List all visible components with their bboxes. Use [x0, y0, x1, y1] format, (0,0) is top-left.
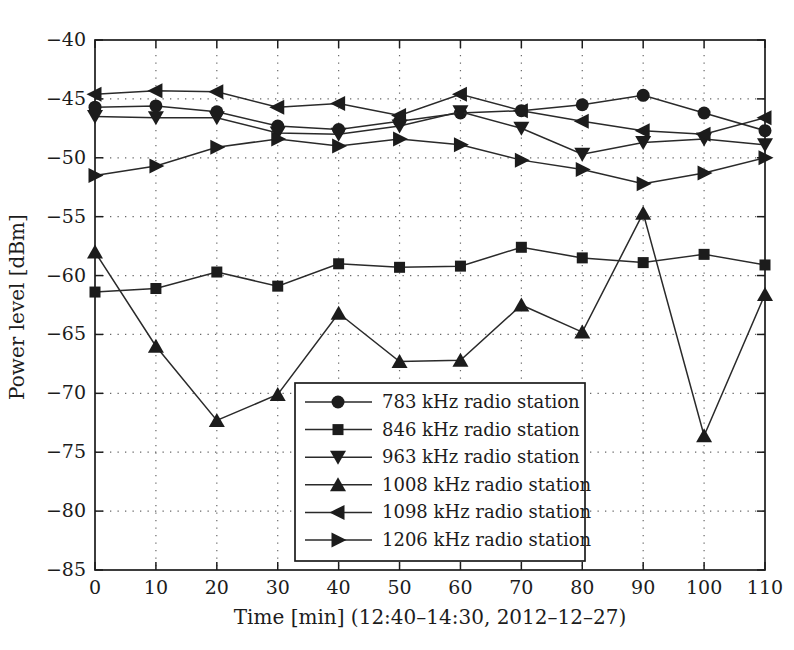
square-marker-icon [90, 287, 101, 298]
x-tick-label: 20 [205, 576, 229, 598]
series-963-khz-radio-station [87, 105, 773, 161]
triangle-left-marker-icon [269, 100, 284, 115]
series-line [95, 139, 765, 184]
triangle-right-marker-icon [89, 168, 104, 183]
circle-marker-icon [759, 124, 772, 137]
triangle-right-marker-icon [210, 140, 225, 155]
triangle-left-marker-icon [208, 84, 223, 99]
triangle-down-marker-icon [513, 122, 529, 136]
square-marker-icon [516, 242, 527, 253]
triangle-left-marker-icon [635, 123, 650, 138]
legend: 783 kHz radio station846 kHz radio stati… [295, 383, 592, 561]
square-marker-icon [760, 259, 771, 270]
legend-label: 1008 kHz radio station [382, 474, 592, 495]
triangle-up-marker-icon [635, 206, 651, 220]
chart-canvas: 0102030405060708090100110−40−45−50−55−60… [0, 0, 794, 650]
triangle-right-marker-icon [454, 137, 469, 152]
y-tick-label: −40 [46, 28, 86, 50]
square-marker-icon [577, 252, 588, 263]
x-tick-label: 70 [509, 576, 533, 598]
y-tick-label: −80 [46, 499, 86, 521]
triangle-up-marker-icon [148, 339, 164, 353]
triangle-up-marker-icon [513, 298, 529, 312]
square-marker-icon [150, 283, 161, 294]
y-tick-label: −75 [46, 440, 86, 462]
y-tick-label: −70 [46, 381, 86, 403]
y-tick-label: −65 [46, 322, 86, 344]
triangle-right-marker-icon [393, 131, 408, 146]
series-line [95, 95, 765, 130]
series-1098-khz-radio-station [87, 83, 772, 142]
triangle-up-marker-icon [757, 287, 773, 301]
x-tick-label: 90 [631, 576, 655, 598]
x-tick-label: 0 [89, 576, 101, 598]
y-axis-title: Power level [dBm] [5, 214, 29, 400]
legend-label: 846 kHz radio station [382, 419, 580, 440]
triangle-right-marker-icon [698, 166, 713, 181]
square-marker-icon [333, 424, 344, 435]
triangle-right-marker-icon [149, 159, 164, 174]
triangle-right-marker-icon [515, 153, 530, 168]
square-marker-icon [211, 267, 222, 278]
legend-label: 783 kHz radio station [382, 391, 580, 412]
square-marker-icon [394, 262, 405, 273]
square-marker-icon [455, 261, 466, 272]
triangle-left-marker-icon [147, 83, 162, 98]
square-marker-icon [272, 281, 283, 292]
y-tick-label: −55 [46, 205, 86, 227]
series-line [95, 112, 765, 154]
x-tick-label: 30 [266, 576, 290, 598]
legend-label: 1206 kHz radio station [382, 529, 592, 550]
legend-label: 1098 kHz radio station [382, 501, 592, 522]
triangle-left-marker-icon [757, 110, 772, 125]
triangle-left-marker-icon [330, 96, 345, 111]
series-line [95, 247, 765, 292]
triangle-right-marker-icon [637, 176, 652, 191]
triangle-up-marker-icon [209, 413, 225, 427]
triangle-left-marker-icon [452, 87, 467, 102]
circle-marker-icon [149, 99, 162, 112]
triangle-right-marker-icon [576, 162, 591, 177]
triangle-right-marker-icon [332, 139, 347, 154]
triangle-up-marker-icon [87, 245, 103, 259]
series-783-khz-radio-station [89, 89, 772, 137]
y-tick-label: −60 [46, 264, 86, 286]
triangle-down-marker-icon [757, 138, 773, 152]
circle-marker-icon [332, 396, 345, 409]
triangle-up-marker-icon [331, 306, 347, 320]
triangle-left-marker-icon [574, 114, 589, 129]
square-marker-icon [699, 249, 710, 260]
triangle-up-marker-icon [270, 387, 286, 401]
triangle-up-marker-icon [696, 428, 712, 442]
series-line [95, 91, 765, 135]
circle-marker-icon [637, 89, 650, 102]
triangle-down-marker-icon [574, 148, 590, 162]
square-marker-icon [333, 258, 344, 269]
circle-marker-icon [698, 107, 711, 120]
circle-marker-icon [576, 98, 589, 111]
legend-label: 963 kHz radio station [382, 446, 580, 467]
y-tick-label: −50 [46, 146, 86, 168]
series-846-khz-radio-station [90, 242, 771, 298]
y-tick-label: −45 [46, 87, 86, 109]
triangle-left-marker-icon [87, 87, 102, 102]
y-tick-label: −85 [46, 558, 86, 580]
x-tick-label: 40 [327, 576, 351, 598]
x-tick-label: 110 [747, 576, 783, 598]
square-marker-icon [638, 257, 649, 268]
x-axis-title: Time [min] (12:40–14:30, 2012–12–27) [234, 605, 627, 629]
x-tick-label: 80 [570, 576, 594, 598]
x-tick-label: 60 [448, 576, 472, 598]
x-tick-label: 10 [144, 576, 168, 598]
triangle-right-marker-icon [759, 150, 774, 165]
radio-power-figure: 0102030405060708090100110−40−45−50−55−60… [0, 0, 794, 650]
triangle-up-marker-icon [574, 325, 590, 339]
x-tick-label: 100 [686, 576, 722, 598]
x-tick-label: 50 [387, 576, 411, 598]
